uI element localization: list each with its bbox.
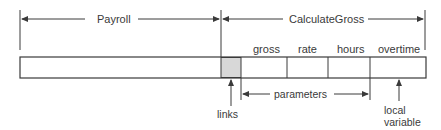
calculate-gross-label: CalculateGross [289, 13, 364, 25]
payroll-label: Payroll [97, 13, 131, 25]
hours-cell-label: hours [337, 43, 365, 55]
overtime-cell-label: overtime [378, 43, 420, 55]
links-cell [221, 58, 241, 78]
parameters-label: parameters [274, 88, 327, 100]
local-variable-label-line1: local [384, 104, 406, 116]
links-label: links [217, 108, 238, 120]
rate-cell-label: rate [298, 43, 317, 55]
gross-cell-label: gross [253, 43, 280, 55]
local-variable-label-line2: variable [384, 116, 421, 128]
